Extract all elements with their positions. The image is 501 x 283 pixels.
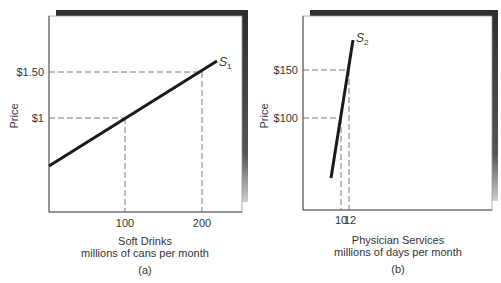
panel-b: S2 $150 $100 Price 10 12 Physician Servi… bbox=[258, 10, 498, 275]
panel-a-x-tick-200: 200 bbox=[193, 217, 211, 229]
panel-a-x-label: Soft Drinks bbox=[118, 235, 172, 247]
panel-a-x-tick-100: 100 bbox=[116, 217, 134, 229]
panel-b-x-label: Physician Services bbox=[352, 234, 445, 246]
panel-b-shadow-right bbox=[492, 10, 498, 201]
panel-b-x-tick-12: 12 bbox=[344, 214, 356, 226]
panel-b-y-tick-high: $150 bbox=[274, 64, 298, 76]
panel-b-plot-area bbox=[303, 16, 492, 210]
panel-a-x-sublabel: millions of cans per month bbox=[81, 247, 209, 259]
panel-a-y-label: Price bbox=[8, 103, 20, 128]
panel-a-shadow-right bbox=[242, 10, 248, 202]
panel-a: S1 $1.50 $1 Price 100 200 Soft Drinks mi… bbox=[8, 10, 248, 276]
panel-a-plot-area bbox=[49, 16, 242, 212]
figure: S1 $1.50 $1 Price 100 200 Soft Drinks mi… bbox=[0, 0, 501, 283]
panel-a-y-tick-high: $1.50 bbox=[16, 66, 44, 78]
panel-a-y-tick-low: $1 bbox=[32, 112, 44, 124]
panel-b-y-tick-low: $100 bbox=[274, 112, 298, 124]
panel-b-caption: (b) bbox=[391, 263, 404, 275]
panel-a-caption: (a) bbox=[138, 264, 151, 276]
panel-b-y-label: Price bbox=[258, 103, 270, 128]
panel-b-x-sublabel: millions of days per month bbox=[334, 246, 462, 258]
